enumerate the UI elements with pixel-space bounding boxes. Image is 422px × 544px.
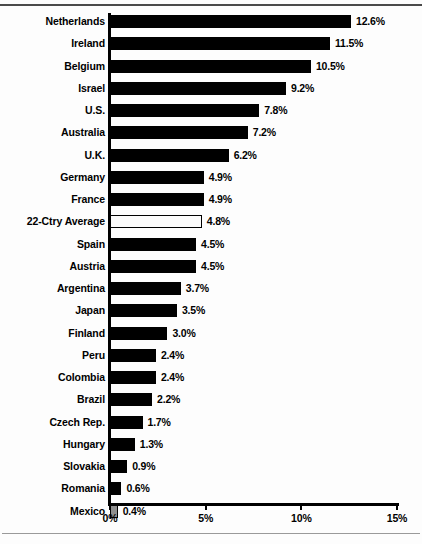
bar-value-label: 7.8%: [264, 104, 287, 117]
category-label: Finland: [68, 327, 105, 340]
bar: [110, 193, 204, 206]
category-label: Japan: [75, 304, 105, 317]
bar: [110, 215, 202, 228]
bar-value-label: 4.5%: [201, 260, 224, 273]
bar: [110, 149, 229, 162]
bar-row: Colombia2.4%: [0, 371, 422, 393]
bar-row: Austria4.5%: [0, 260, 422, 282]
bar-row: Hungary1.3%: [0, 438, 422, 460]
bar-value-label: 1.7%: [148, 416, 171, 429]
bar: [110, 349, 156, 362]
bar-value-label: 3.7%: [186, 282, 209, 295]
bar: [110, 60, 311, 73]
bar-row: Romania0.6%: [0, 482, 422, 504]
bar: [110, 438, 135, 451]
bar-row: Israel9.2%: [0, 82, 422, 104]
horizontal-bar-chart: Netherlands12.6%Ireland11.5%Belgium10.5%…: [0, 0, 422, 544]
bar-value-label: 3.5%: [182, 304, 205, 317]
x-axis-tick-label: 0%: [103, 512, 118, 524]
bar-row: Finland3.0%: [0, 327, 422, 349]
category-label: France: [71, 193, 105, 206]
x-axis-tick: [205, 503, 207, 510]
bar: [110, 416, 143, 429]
x-axis-tick: [300, 503, 302, 510]
bar: [110, 104, 259, 117]
category-label: Spain: [77, 238, 105, 251]
bar-value-label: 4.9%: [209, 193, 232, 206]
bar-row: U.K.6.2%: [0, 149, 422, 171]
bar: [110, 482, 121, 495]
x-axis-tick-label: 5%: [198, 512, 213, 524]
category-label: U.K.: [84, 149, 105, 162]
bar: [110, 327, 167, 340]
bar-value-label: 0.4%: [123, 505, 146, 518]
category-label: Germany: [60, 171, 105, 184]
bar-row: 22-Ctry Average4.8%: [0, 215, 422, 237]
bar-value-label: 4.5%: [201, 238, 224, 251]
category-label: Ireland: [71, 37, 105, 50]
bar-value-label: 0.6%: [126, 482, 149, 495]
category-label: Argentina: [57, 282, 105, 295]
bar-row: Belgium10.5%: [0, 60, 422, 82]
category-label: Mexico: [70, 505, 105, 518]
category-label: Austria: [70, 260, 105, 273]
bar-value-label: 6.2%: [234, 149, 257, 162]
bar: [110, 37, 330, 50]
category-label: U.S.: [85, 104, 105, 117]
bar-value-label: 9.2%: [291, 82, 314, 95]
category-label: Slovakia: [63, 460, 105, 473]
bar: [110, 82, 286, 95]
category-label: Czech Rep.: [49, 416, 105, 429]
bar: [110, 238, 196, 251]
bar: [110, 282, 181, 295]
bar-value-label: 4.9%: [209, 171, 232, 184]
category-label: Australia: [61, 126, 105, 139]
bar-row: Slovakia0.9%: [0, 460, 422, 482]
bar: [110, 15, 351, 28]
x-axis-tick-label: 10%: [291, 512, 311, 524]
category-label: Hungary: [63, 438, 105, 451]
bar-value-label: 3.0%: [172, 327, 195, 340]
category-label: Brazil: [77, 393, 105, 406]
bar-row: Japan3.5%: [0, 304, 422, 326]
bar-value-label: 12.6%: [356, 15, 385, 28]
category-label: Netherlands: [45, 15, 105, 28]
bar-value-label: 10.5%: [316, 60, 345, 73]
x-axis-tick: [396, 503, 398, 510]
page-rule-bottom: [2, 533, 420, 534]
bar-row: Netherlands12.6%: [0, 15, 422, 37]
category-label: Peru: [82, 349, 105, 362]
bar-row: Brazil2.2%: [0, 393, 422, 415]
bar-row: Czech Rep.1.7%: [0, 416, 422, 438]
x-axis-tick-label: 15%: [387, 512, 407, 524]
bar-row: Germany4.9%: [0, 171, 422, 193]
bar-row: Peru2.4%: [0, 349, 422, 371]
bar: [110, 460, 127, 473]
bar: [110, 304, 177, 317]
bar-value-label: 0.9%: [132, 460, 155, 473]
bar-row: Spain4.5%: [0, 238, 422, 260]
bar: [110, 171, 204, 184]
bar-value-label: 4.8%: [207, 215, 230, 228]
bar-value-label: 2.4%: [161, 371, 184, 384]
bar-row: France4.9%: [0, 193, 422, 215]
category-label: Israel: [78, 82, 105, 95]
bar-value-label: 2.4%: [161, 349, 184, 362]
x-axis-tick: [109, 503, 111, 510]
bar-row: Argentina3.7%: [0, 282, 422, 304]
bar-value-label: 11.5%: [335, 37, 363, 50]
category-label: 22-Ctry Average: [27, 215, 105, 228]
bar: [110, 393, 152, 406]
bar-value-label: 2.2%: [157, 393, 180, 406]
bar: [110, 260, 196, 273]
bar: [110, 126, 248, 139]
bar-row: U.S.7.8%: [0, 104, 422, 126]
category-label: Romania: [61, 482, 105, 495]
category-label: Colombia: [58, 371, 105, 384]
bar-row: Australia7.2%: [0, 126, 422, 148]
bar-value-label: 7.2%: [253, 126, 276, 139]
bar: [110, 371, 156, 384]
category-label: Belgium: [64, 60, 105, 73]
bar-value-label: 1.3%: [140, 438, 163, 451]
bar-row: Ireland11.5%: [0, 37, 422, 59]
